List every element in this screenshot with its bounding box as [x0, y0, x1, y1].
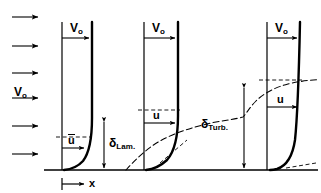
- freestream-velocity-label-profile-3: Vo: [275, 22, 288, 34]
- delta-turbulent-label: δTurb.: [201, 118, 228, 130]
- freestream-velocity-label-profile-1: Vo: [70, 22, 83, 34]
- delta-laminar-label: δLam.: [109, 137, 135, 149]
- x-axis-label: x: [89, 178, 95, 189]
- laminar-mean-velocity-label: u: [68, 134, 75, 147]
- turbulent-velocity-label: u: [277, 94, 284, 105]
- boundary-layer-figure: Vo Vo Vo Vo u u u δLam. δTurb. x: [0, 0, 321, 193]
- turbulent-wall-tangent-line: [286, 163, 316, 168]
- transition-velocity-profile-curve: [146, 22, 178, 170]
- freestream-velocity-label-left: Vo: [14, 86, 27, 98]
- freestream-velocity-label-profile-2: Vo: [152, 22, 165, 34]
- turbulent-velocity-profile-curve: [270, 22, 300, 170]
- x-axis-indicator: [62, 178, 84, 190]
- transition-velocity-label: u: [153, 110, 160, 121]
